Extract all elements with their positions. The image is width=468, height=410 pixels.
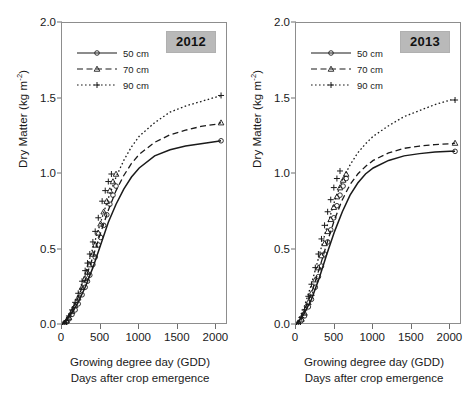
data-point-90-cm [331, 185, 337, 191]
x-tick-mark [138, 324, 139, 329]
legend: 50 cm70 cm90 cm [310, 45, 383, 93]
x-tick-label: 500 [90, 331, 109, 343]
x-axis-label-secondary: Days after crop emergence [274, 372, 468, 384]
panel-2012: Dry Matter (kg m-2)0.00.51.01.52.050 cm7… [0, 0, 234, 410]
legend-key-icon [310, 79, 352, 91]
y-tick-label: 0.5 [274, 243, 290, 255]
legend-key-icon [310, 63, 352, 75]
y-tick-label: 1.5 [40, 92, 56, 104]
data-point-90-cm [322, 222, 328, 228]
legend-item-90-cm: 90 cm [310, 77, 383, 93]
x-tick-mark [61, 324, 62, 329]
data-point-70-cm [218, 120, 224, 125]
y-tick-label: 1.5 [274, 92, 290, 104]
legend-label: 70 cm [357, 64, 383, 75]
series-line-70-cm [296, 143, 455, 325]
legend-label: 90 cm [357, 80, 383, 91]
legend-item-50-cm: 50 cm [76, 45, 149, 61]
legend-label: 90 cm [123, 80, 149, 91]
x-tick-mark [372, 324, 373, 329]
x-tick-mark [215, 324, 216, 329]
data-point-90-cm [328, 197, 334, 203]
data-point-90-cm [79, 278, 85, 284]
legend-item-90-cm: 90 cm [76, 77, 149, 93]
series-line-90-cm [62, 95, 221, 325]
x-tick-label: 500 [324, 331, 343, 343]
legend-key-icon [310, 47, 352, 59]
data-point-90-cm [95, 215, 101, 221]
x-tick-label: 1000 [359, 331, 385, 343]
legend-key-icon [76, 79, 118, 91]
y-axis-ticks: 0.00.51.01.52.0 [256, 22, 290, 324]
legend-label: 70 cm [123, 64, 149, 75]
legend-item-70-cm: 70 cm [76, 61, 149, 77]
x-tick-mark [295, 324, 296, 329]
series-line-70-cm [62, 123, 221, 325]
data-point-90-cm [452, 97, 458, 103]
data-point-90-cm [337, 168, 343, 174]
plot-area: 50 cm70 cm90 cm2013 [295, 22, 461, 324]
plot-area: 50 cm70 cm90 cm2012 [61, 22, 227, 324]
y-tick-label: 0.0 [274, 318, 290, 330]
x-tick-label: 1000 [125, 331, 151, 343]
x-tick-mark [411, 324, 412, 329]
year-badge: 2012 [166, 31, 216, 53]
data-point-70-cm [331, 204, 337, 209]
legend-key-icon [76, 47, 118, 59]
legend-item-50-cm: 50 cm [310, 45, 383, 61]
data-point-70-cm [343, 171, 349, 176]
x-axis-label-secondary: Days after crop emergence [40, 372, 240, 384]
x-tick-label: 0 [58, 331, 64, 343]
legend-label: 50 cm [357, 48, 383, 59]
year-badge: 2013 [400, 31, 450, 53]
x-tick-label: 1500 [398, 331, 424, 343]
y-tick-label: 1.0 [274, 167, 290, 179]
x-axis-label-primary: Growing degree day (GDD) [274, 356, 468, 368]
data-point-90-cm [334, 176, 340, 182]
y-tick-label: 0.5 [40, 243, 56, 255]
data-point-90-cm [92, 228, 98, 234]
legend-key-icon [76, 63, 118, 75]
data-point-70-cm [334, 194, 340, 199]
series-line-90-cm [296, 100, 455, 325]
series-line-50-cm [296, 151, 455, 325]
y-tick-label: 2.0 [40, 16, 56, 28]
y-tick-label: 1.0 [40, 167, 56, 179]
x-tick-mark [100, 324, 101, 329]
x-axis-label-primary: Growing degree day (GDD) [40, 356, 240, 368]
y-tick-label: 0.0 [40, 318, 56, 330]
figure-two-panel-dry-matter: Dry Matter (kg m-2)0.00.51.01.52.050 cm7… [0, 0, 468, 410]
data-point-50-cm [114, 184, 119, 189]
x-tick-mark [177, 324, 178, 329]
data-point-90-cm [84, 260, 90, 266]
x-axis-ticks: 0500100015002000 [295, 324, 461, 344]
x-tick-mark [449, 324, 450, 329]
x-tick-mark [334, 324, 335, 329]
data-point-70-cm [328, 217, 334, 222]
legend: 50 cm70 cm90 cm [76, 45, 149, 93]
x-tick-label: 0 [292, 331, 298, 343]
x-tick-label: 2000 [437, 331, 463, 343]
data-point-90-cm [90, 239, 96, 245]
x-axis-ticks: 0500100015002000 [61, 324, 227, 344]
y-tick-label: 2.0 [274, 16, 290, 28]
series-line-50-cm [62, 141, 221, 325]
legend-label: 50 cm [123, 48, 149, 59]
y-axis-ticks: 0.00.51.01.52.0 [22, 22, 56, 324]
x-tick-label: 1500 [164, 331, 190, 343]
panel-2013: Dry Matter (kg m-2)0.00.51.01.52.050 cm7… [234, 0, 468, 410]
x-tick-label: 2000 [203, 331, 229, 343]
data-point-90-cm [325, 209, 331, 215]
data-point-90-cm [218, 92, 224, 98]
legend-item-70-cm: 70 cm [310, 61, 383, 77]
